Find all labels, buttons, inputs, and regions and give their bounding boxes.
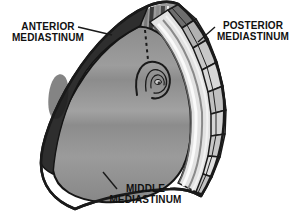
anterior-mediastinum-label: ANTERIOR MEDIASTINUM	[3, 22, 93, 43]
anterior-label-line1: ANTERIOR	[3, 22, 93, 33]
middle-mediastinum-label: MIDDLE MEDIASTINUM	[98, 184, 193, 205]
middle-label-line2: MEDIASTINUM	[98, 195, 193, 206]
mediastinum-diagram: ANTERIOR MEDIASTINUM POSTERIOR MEDIASTIN…	[0, 0, 300, 219]
middle-mediastinum-region	[52, 27, 191, 202]
posterior-label-line2: MEDIASTINUM	[207, 32, 299, 43]
middle-label-line1: MIDDLE	[98, 184, 193, 195]
posterior-label-line1: POSTERIOR	[207, 21, 299, 32]
posterior-mediastinum-label: POSTERIOR MEDIASTINUM	[207, 21, 299, 42]
anterior-label-line2: MEDIASTINUM	[3, 33, 93, 44]
